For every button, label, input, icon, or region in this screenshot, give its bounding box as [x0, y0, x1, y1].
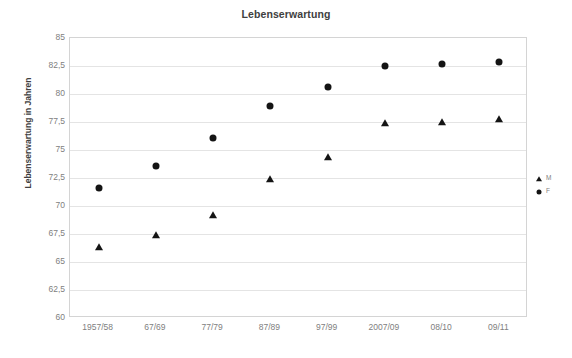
- chart-title: Lebenserwartung: [0, 8, 572, 20]
- data-point-f: [324, 84, 331, 91]
- y-axis-tick-label: 67,5: [21, 228, 65, 238]
- x-axis-tick-label: 09/11: [453, 322, 543, 332]
- data-point-f: [210, 134, 217, 141]
- y-axis-tick-label: 72,5: [21, 172, 65, 182]
- data-point-f: [381, 63, 388, 70]
- legend-item-m: M: [534, 172, 572, 185]
- y-axis-tick-label: 75: [21, 144, 65, 154]
- y-axis-tick-label: 80: [21, 88, 65, 98]
- legend-label: M: [546, 175, 551, 182]
- triangle-icon: [534, 174, 544, 184]
- data-point-m: [324, 153, 332, 160]
- gridline: [70, 178, 526, 179]
- data-point-m: [95, 244, 103, 251]
- legend-label: F: [546, 188, 550, 195]
- y-axis-tick-labels: 6062,56567,57072,57577,58082,585: [21, 37, 65, 317]
- gridline: [70, 290, 526, 291]
- data-point-m: [438, 118, 446, 125]
- x-axis-tick-labels: 1957/5867/6977/7987/8997/992007/0908/100…: [69, 322, 527, 342]
- gridline: [70, 122, 526, 123]
- y-axis-tick-label: 60: [21, 312, 65, 322]
- y-axis-tick-label: 65: [21, 256, 65, 266]
- data-point-f: [267, 103, 274, 110]
- data-point-m: [495, 115, 503, 122]
- legend: MF: [534, 172, 572, 198]
- gridline: [70, 206, 526, 207]
- y-axis-tick-label: 62,5: [21, 284, 65, 294]
- y-axis-tick-label: 77,5: [21, 116, 65, 126]
- gridline: [70, 234, 526, 235]
- gridline: [70, 66, 526, 67]
- y-axis-tick-label: 82,5: [21, 60, 65, 70]
- y-axis-tick-label: 85: [21, 32, 65, 42]
- gridline: [70, 150, 526, 151]
- legend-item-f: F: [534, 185, 572, 198]
- gridline: [70, 262, 526, 263]
- data-point-m: [152, 231, 160, 238]
- data-point-f: [95, 185, 102, 192]
- data-point-f: [439, 60, 446, 67]
- data-point-m: [381, 119, 389, 126]
- circle-icon: [534, 187, 544, 197]
- data-point-m: [266, 175, 274, 182]
- data-point-f: [496, 58, 503, 65]
- data-point-m: [209, 211, 217, 218]
- plot-area: [69, 37, 527, 317]
- gridline: [70, 94, 526, 95]
- data-point-f: [152, 162, 159, 169]
- chart-container: Lebenserwartung Lebenserwartung in Jahre…: [0, 0, 572, 358]
- y-axis-tick-label: 70: [21, 200, 65, 210]
